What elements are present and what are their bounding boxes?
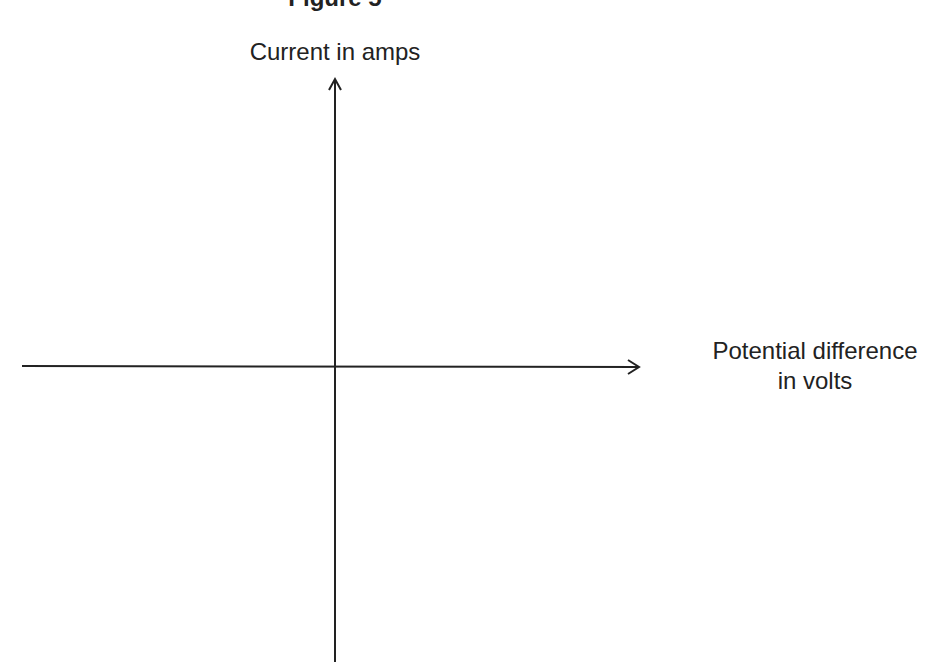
axes: [0, 0, 950, 669]
x-axis: [22, 366, 638, 367]
